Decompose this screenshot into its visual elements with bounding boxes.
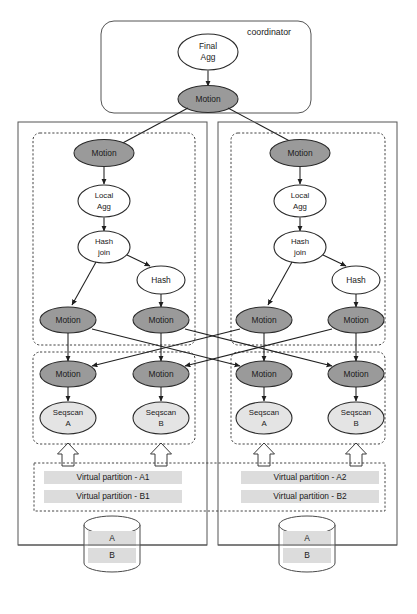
seg2-receiver-motion-right-label: Motion: [343, 369, 368, 379]
seg2-hash-join-label-line2: join: [293, 248, 306, 257]
edge-seg1-hashjoin-to-hash: [127, 255, 150, 266]
seg1-sender-motion-left-label: Motion: [55, 315, 80, 325]
segment-1-group: Segment 1 Motion Local Agg Hash join Has…: [18, 122, 207, 572]
seg2-table-a-label: A: [304, 533, 310, 543]
edge-seg2-hashjoin-to-motion-left: [268, 262, 292, 305]
seg2-top-motion-label: Motion: [287, 148, 312, 158]
diagram-canvas: coordinator Final Agg Motion Segment 1 M…: [0, 0, 417, 614]
seg1-partition-a-label: Virtual partition - A1: [77, 472, 150, 482]
seg2-partition-a-label: Virtual partition - A2: [274, 472, 347, 482]
seg1-seqscan-b-node: [133, 402, 189, 434]
seg2-sender-motion-right-label: Motion: [343, 315, 368, 325]
seg1-receiver-motion-right-label: Motion: [148, 369, 173, 379]
seg2-seqscan-a-node: [236, 402, 292, 434]
seg2-sender-motion-left-label: Motion: [251, 315, 276, 325]
seg2-hash-join-label-line1: Hash: [291, 237, 309, 246]
seg2-local-agg-label-line2: Agg: [293, 202, 307, 211]
seg1-receiver-motion-left-label: Motion: [55, 369, 80, 379]
seg1-seqscan-a-label-line2: A: [65, 419, 71, 428]
seg1-table-a-label: A: [109, 533, 115, 543]
seg1-local-agg-label-line1: Local: [95, 191, 114, 200]
seg2-partition-b-label: Virtual partition - B2: [273, 491, 347, 501]
seg2-local-agg-label-line1: Local: [291, 191, 310, 200]
seg1-seqscan-a-label-line1: Seqscan: [53, 408, 83, 417]
edge-seg1-hashjoin-to-motion-left: [72, 262, 96, 305]
final-agg-label-line2: Agg: [201, 52, 216, 62]
segment-2-group: Segment 2 Motion Local Agg Hash join Has…: [218, 122, 397, 572]
virtual-partition-box: [34, 463, 385, 511]
seg1-seqscan-a-node: [40, 402, 96, 434]
query-plan-diagram: coordinator Final Agg Motion Segment 1 M…: [0, 0, 417, 614]
seg1-partition-b-label: Virtual partition - B1: [76, 491, 150, 501]
seg2-seqscan-b-label-line2: B: [353, 419, 358, 428]
seg1-local-agg-label-line2: Agg: [97, 202, 111, 211]
seg1-seqscan-b-label-line1: Seqscan: [146, 408, 176, 417]
coordinator-group: coordinator Final Agg Motion: [101, 21, 311, 113]
redistribution-edges: [68, 329, 356, 366]
final-agg-label-line1: Final: [199, 41, 217, 51]
seg1-hash-join-label-line2: join: [97, 248, 110, 257]
seg1-top-motion-label: Motion: [91, 148, 116, 158]
seg1-seqscan-b-label-line2: B: [158, 419, 163, 428]
seg1-hash-label: Hash: [151, 275, 171, 285]
seg2-seqscan-b-node: [328, 402, 384, 434]
seg2-hash-label: Hash: [346, 275, 366, 285]
seg1-sender-motion-right-label: Motion: [148, 315, 173, 325]
seg1-hash-join-label-line1: Hash: [95, 237, 113, 246]
seg2-seqscan-a-label-line1: Seqscan: [249, 408, 279, 417]
coordinator-label: coordinator: [247, 27, 291, 37]
seg1-table-b-label: B: [109, 550, 115, 560]
seg2-table-b-label: B: [304, 550, 310, 560]
coordinator-motion-label: Motion: [195, 94, 220, 104]
edge-seg2-hashjoin-to-hash: [323, 255, 346, 266]
seg2-receiver-motion-left-label: Motion: [251, 369, 276, 379]
seg2-seqscan-a-label-line2: A: [261, 419, 267, 428]
seg2-seqscan-b-label-line1: Seqscan: [341, 408, 371, 417]
